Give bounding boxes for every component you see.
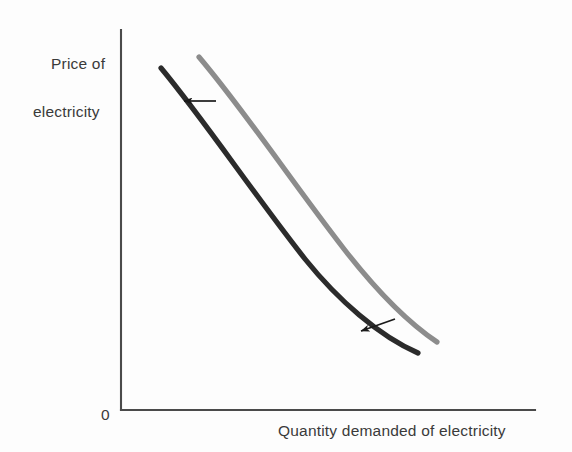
original-demand-curve bbox=[199, 57, 437, 342]
plot-area bbox=[0, 0, 572, 452]
shifted-demand-curve bbox=[161, 68, 418, 353]
demand-curve-figure: Price of electricity Quantity demanded o… bbox=[0, 0, 572, 452]
